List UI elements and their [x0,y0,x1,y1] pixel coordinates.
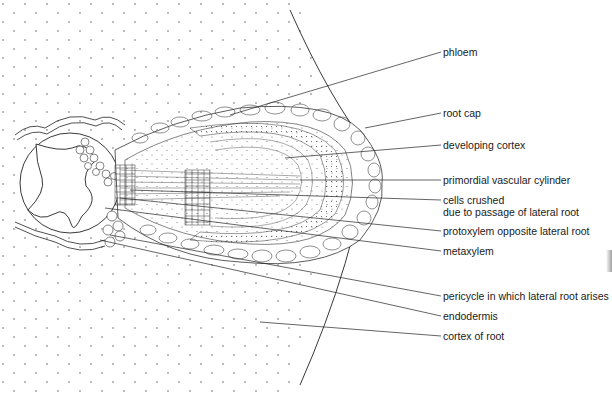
label-developing-cortex: developing cortex [443,139,525,151]
label-root-cap: root cap [443,107,481,119]
page-edge-shadow [606,250,612,272]
root-diagram: phloem root cap developing cortex primor… [0,0,612,395]
label-cells-crushed: cells crushed [443,194,504,206]
label-phloem: phloem [443,46,477,58]
root-section-illustration [0,0,612,395]
label-metaxylem: metaxylem [443,245,494,257]
label-cortex-of-root: cortex of root [443,330,504,342]
label-cells-crushed-line2: due to passage of lateral root [443,206,579,218]
label-pericycle: pericycle in which lateral root arises [443,290,609,302]
label-primordial-vascular-cylinder: primordial vascular cylinder [443,174,570,186]
label-endodermis: endodermis [443,310,498,322]
label-protoxylem: protoxylem opposite lateral root [443,225,590,237]
